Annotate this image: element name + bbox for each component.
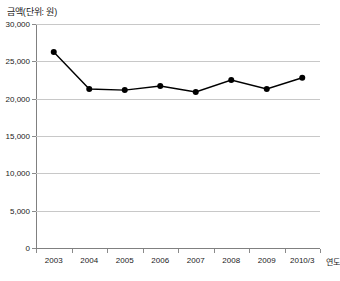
- y-tick-mark: [32, 136, 36, 137]
- x-tick-label: 2010/3: [290, 256, 314, 265]
- x-tick-mark: [320, 249, 321, 253]
- y-tick-mark: [32, 211, 36, 212]
- x-tick-label: 2003: [45, 256, 63, 265]
- x-tick-label: 2004: [80, 256, 98, 265]
- x-tick-label: 2006: [151, 256, 169, 265]
- data-point-marker: [51, 49, 57, 55]
- x-tick-label: 2007: [187, 256, 205, 265]
- x-tick-mark: [178, 249, 179, 253]
- x-tick-mark: [143, 249, 144, 253]
- x-tick-mark: [214, 249, 215, 253]
- x-axis-caption: 연도: [326, 256, 340, 267]
- series-markers: [51, 49, 306, 95]
- x-tick-mark: [72, 249, 73, 253]
- x-tick-label: 2005: [116, 256, 134, 265]
- y-tick-mark: [32, 99, 36, 100]
- data-point-marker: [264, 86, 270, 92]
- x-tick-label: 2008: [222, 256, 240, 265]
- x-tick-mark: [285, 249, 286, 253]
- x-tick-label: 2009: [258, 256, 276, 265]
- data-point-marker: [86, 86, 92, 92]
- data-point-marker: [122, 87, 128, 93]
- data-point-marker: [193, 89, 199, 95]
- y-tick-mark: [32, 173, 36, 174]
- data-point-marker: [228, 77, 234, 83]
- y-tick-mark: [32, 24, 36, 25]
- series-line: [54, 52, 303, 92]
- data-point-marker: [157, 83, 163, 89]
- x-tick-mark: [249, 249, 250, 253]
- y-tick-mark: [32, 61, 36, 62]
- x-tick-mark: [107, 249, 108, 253]
- x-tick-mark: [36, 249, 37, 253]
- data-point-marker: [299, 75, 305, 81]
